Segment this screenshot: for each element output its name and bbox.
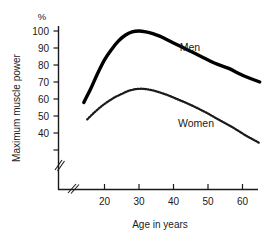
y-tick-label-70: 70	[38, 77, 50, 88]
y-axis-ticks	[54, 31, 59, 150]
x-tick-label-30: 30	[133, 196, 145, 207]
x-tick-label-40: 40	[168, 196, 180, 207]
series-line-men	[84, 31, 260, 102]
series-label-men: Men	[180, 41, 201, 53]
y-tick-label-100: 100	[32, 26, 49, 37]
chart-container: % 100 90 80 70 60 50 40 20 30 40 50 60 A…	[0, 0, 266, 245]
muscle-power-line-chart: % 100 90 80 70 60 50 40 20 30 40 50 60 A…	[0, 0, 266, 245]
y-tick-label-60: 60	[38, 94, 50, 105]
series-line-women	[87, 89, 260, 143]
y-axis-unit-label: %	[38, 11, 47, 22]
y-tick-label-80: 80	[38, 60, 50, 71]
y-axis-title: Maximum muscle power	[11, 53, 22, 161]
y-tick-label-90: 90	[38, 43, 50, 54]
x-tick-label-50: 50	[202, 196, 214, 207]
x-axis-break-icon	[68, 184, 79, 194]
y-axis-break-icon	[55, 160, 65, 171]
y-tick-label-50: 50	[38, 111, 50, 122]
y-tick-label-40: 40	[38, 128, 50, 139]
x-axis-ticks	[105, 184, 243, 190]
x-tick-label-20: 20	[99, 196, 111, 207]
x-tick-label-60: 60	[237, 196, 249, 207]
x-axis-title: Age in years	[132, 219, 188, 230]
series-label-women: Women	[178, 117, 214, 129]
